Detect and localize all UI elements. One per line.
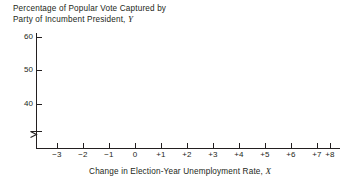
x-tick-mark: [330, 143, 331, 148]
x-tick-mark: [291, 143, 292, 148]
x-tick-mark: [213, 143, 214, 148]
x-tick-mark: [317, 143, 318, 148]
x-axis-title: Change in Election-Year Unemployment Rat…: [0, 166, 360, 176]
x-axis-line: [36, 148, 340, 149]
y-tick-mark: [37, 37, 42, 38]
x-tick-label: +2: [174, 150, 200, 159]
x-tick-mark: [161, 143, 162, 148]
y-axis-title-line1: Percentage of Popular Vote Captured by: [13, 4, 166, 13]
x-tick-label: +5: [252, 150, 278, 159]
chart-figure: Percentage of Popular Vote Captured byPa…: [0, 0, 360, 185]
y-tick-mark: [37, 70, 42, 71]
x-tick-label: −2: [70, 150, 96, 159]
y-tick-label: 60: [14, 32, 33, 41]
axis-break-icon: [29, 128, 44, 142]
y-tick-mark: [37, 104, 42, 105]
y-axis-title-line2: Party of Incumbent President,: [13, 15, 128, 24]
x-tick-mark: [109, 143, 110, 148]
x-tick-label: −1: [96, 150, 122, 159]
y-axis-title: Percentage of Popular Vote Captured byPa…: [13, 3, 243, 25]
x-tick-label: +4: [226, 150, 252, 159]
x-tick-label: +8: [317, 150, 343, 159]
x-axis-variable-symbol: X: [265, 166, 271, 176]
x-axis-title-text: Change in Election-Year Unemployment Rat…: [89, 167, 265, 176]
x-tick-label: +6: [278, 150, 304, 159]
x-tick-label: +1: [148, 150, 174, 159]
x-tick-mark: [239, 143, 240, 148]
x-tick-label: +3: [200, 150, 226, 159]
y-tick-label: 50: [14, 65, 33, 74]
x-tick-mark: [83, 143, 84, 148]
y-tick-label: 40: [14, 99, 33, 108]
plot-area: [37, 33, 340, 148]
x-tick-label: −3: [44, 150, 70, 159]
y-axis-variable-symbol: Y: [128, 14, 133, 24]
x-tick-mark: [187, 143, 188, 148]
x-tick-label: 0: [122, 150, 148, 159]
x-tick-mark: [57, 143, 58, 148]
x-tick-mark: [135, 143, 136, 148]
x-tick-mark: [265, 143, 266, 148]
